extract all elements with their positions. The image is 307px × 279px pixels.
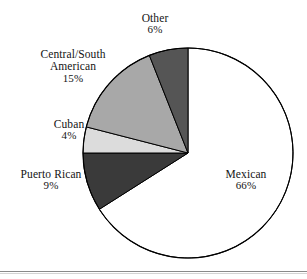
slice-label-central-south-american: Central/South American 15%	[17, 48, 129, 85]
slice-label-central-south-american-value: 15%	[17, 73, 129, 85]
footer-divider-highlight	[0, 273, 307, 274]
slice-label-other-value: 6%	[118, 24, 192, 36]
slice-label-cuban: Cuban 4%	[32, 118, 106, 142]
slice-label-mexican-value: 66%	[206, 180, 286, 192]
slice-label-cuban-value: 4%	[32, 130, 106, 142]
slice-label-puerto-rican: Puerto Rican 9%	[2, 168, 100, 192]
slice-label-central-south-american-name-line2: American	[17, 60, 129, 72]
slice-label-central-south-american-name-line1: Central/South	[17, 48, 129, 60]
slice-label-other: Other 6%	[118, 12, 192, 36]
slice-label-mexican: Mexican 66%	[206, 168, 286, 192]
slice-label-puerto-rican-value: 9%	[2, 180, 100, 192]
footer-divider	[0, 271, 307, 272]
pie-chart: Other 6% Central/South American 15% Cuba…	[0, 0, 307, 279]
